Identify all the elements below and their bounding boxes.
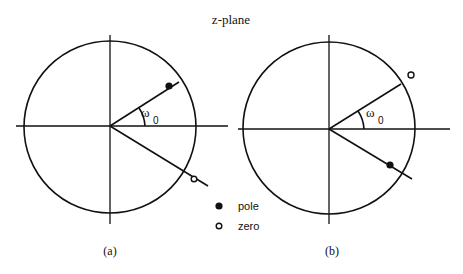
- omega-label: ω: [366, 105, 375, 120]
- omega-label: ω: [141, 105, 150, 120]
- legend: pole zero: [215, 200, 259, 232]
- z-plane-figure: z-plane ω 0 (a) ω 0 (b): [0, 0, 463, 274]
- omega-subscript: 0: [153, 115, 159, 126]
- omega-subscript: 0: [378, 115, 384, 126]
- legend-zero-icon: [216, 223, 222, 229]
- zero-marker: [408, 72, 414, 78]
- radial-line-lower: [329, 129, 412, 179]
- legend-zero-label: zero: [238, 220, 259, 232]
- panel-a: ω 0 (a): [16, 35, 228, 258]
- panel-label-b: (b): [325, 244, 339, 258]
- legend-pole-label: pole: [238, 200, 259, 212]
- pole-marker: [165, 82, 172, 89]
- panel-label-a: (a): [103, 244, 116, 258]
- legend-pole-icon: [215, 202, 222, 209]
- zero-marker: [191, 176, 197, 182]
- panel-b: ω 0 (b): [238, 35, 450, 258]
- radial-line-upper: [329, 84, 401, 129]
- figure-title: z-plane: [212, 12, 250, 27]
- angle-arc: [358, 111, 364, 129]
- pole-marker: [386, 161, 393, 168]
